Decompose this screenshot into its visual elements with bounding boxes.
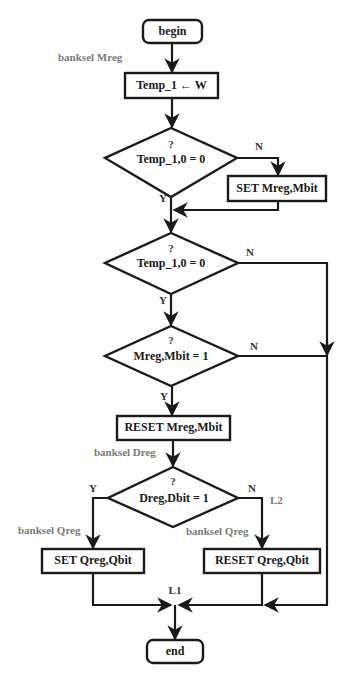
connector-decision4-yes [93,498,108,548]
decision-3-yes-label: Y [160,390,168,402]
decision-2-no-label: N [246,246,254,258]
connector-set-qreg-l1 [93,573,171,605]
decision-1-condition: Temp_1,0 = 0 [137,152,206,166]
decision-2: ? Temp_1,0 = 0 [105,233,238,294]
begin-terminal: begin [143,20,202,43]
annotation-banksel-qreg-left: banksel Qreg [18,524,81,536]
end-terminal: end [147,640,203,663]
annotation-banksel-qreg-right: banksel Qreg [186,525,249,537]
decision-3-condition: Mreg,Mbit = 1 [134,349,209,363]
annotation-label-l2: L2 [270,494,283,506]
process-temp-assign: Temp_1 ← W [125,73,218,98]
decision-2-question: ? [168,242,174,254]
process-set-mreg-label: SET Mreg,Mbit [236,181,318,195]
decision-3-question: ? [168,334,174,346]
process-reset-mreg: RESET Mreg,Mbit [117,416,230,440]
begin-label: begin [158,24,186,38]
process-reset-mreg-label: RESET Mreg,Mbit [124,420,222,434]
decision-1: ? Temp_1,0 = 0 [105,128,237,197]
decision-4-condition: Dreg,Dbit = 1 [139,491,209,505]
decision-2-condition: Temp_1,0 = 0 [137,256,206,270]
decision-4-question: ? [170,475,176,487]
decision-1-question: ? [168,138,174,150]
decision-4-yes-label: Y [89,482,97,494]
decision-1-yes-label: Y [159,192,167,204]
decision-4-no-label: N [248,482,256,494]
process-reset-qreg: RESET Qreg,Qbit [204,549,320,573]
connector-decision4-no [238,498,262,548]
process-temp-assign-label: Temp_1 ← W [136,78,207,92]
connector-set-mreg-return [174,201,278,210]
connector-reset-qreg-l1 [179,573,262,605]
process-set-mreg: SET Mreg,Mbit [228,176,326,201]
annotation-label-l1: L1 [169,584,182,596]
end-label: end [166,644,185,658]
annotation-banksel-dreg: banksel Dreg [94,446,156,458]
process-set-qreg: SET Qreg,Qbit [42,549,144,573]
decision-1-no-label: N [255,140,263,152]
decision-3: ? Mreg,Mbit = 1 [105,326,238,386]
decision-3-no-label: N [250,340,258,352]
decision-2-yes-label: Y [159,294,167,306]
connector-decision1-no [237,158,278,175]
decision-4: ? Dreg,Dbit = 1 [108,467,238,527]
process-set-qreg-label: SET Qreg,Qbit [54,553,132,567]
process-reset-qreg-label: RESET Qreg,Qbit [215,553,309,567]
annotation-banksel-mreg: banksel Mreg [58,51,123,63]
flowchart-diagram: begin banksel Mreg Temp_1 ← W ? Temp_1,0… [0,0,345,684]
